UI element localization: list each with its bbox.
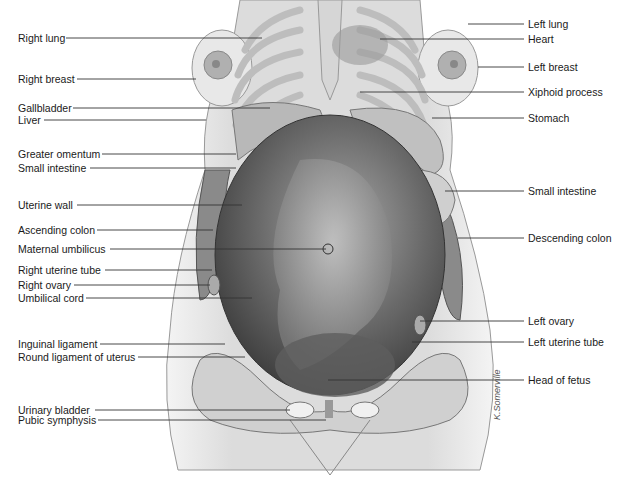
- heart: [332, 25, 388, 65]
- label-left-uterine-tube: Left uterine tube: [528, 336, 604, 348]
- label-pubic-symphysis: Pubic symphysis: [18, 414, 96, 426]
- label-left-ovary: Left ovary: [528, 315, 574, 327]
- left-ovary: [414, 315, 426, 335]
- label-stomach: Stomach: [528, 112, 569, 124]
- label-uterine-wall: Uterine wall: [18, 199, 73, 211]
- label-gallbladder: Gallbladder: [18, 102, 72, 114]
- label-small-intestine-right: Small intestine: [528, 185, 596, 197]
- label-ascending-colon: Ascending colon: [18, 224, 95, 236]
- label-descending-colon: Descending colon: [528, 232, 611, 244]
- label-small-intestine-left: Small intestine: [18, 162, 86, 174]
- label-left-breast: Left breast: [528, 61, 578, 73]
- label-heart: Heart: [528, 33, 554, 45]
- label-right-uterine-tube: Right uterine tube: [18, 264, 101, 276]
- label-round-ligament-of-uterus: Round ligament of uterus: [18, 351, 135, 363]
- artist-signature: K.Somerville: [492, 369, 502, 420]
- label-left-lung: Left lung: [528, 18, 568, 30]
- fetal-head: [275, 333, 395, 397]
- label-greater-omentum: Greater omentum: [18, 148, 100, 160]
- label-head-of-fetus: Head of fetus: [528, 374, 590, 386]
- label-maternal-umbilicus: Maternal umbilicus: [18, 243, 106, 255]
- label-inguinal-ligament: Inguinal ligament: [18, 338, 97, 350]
- label-right-breast: Right breast: [18, 73, 75, 85]
- label-liver: Liver: [18, 114, 41, 126]
- label-right-lung: Right lung: [18, 32, 65, 44]
- label-xiphoid-process: Xiphoid process: [528, 86, 603, 98]
- label-right-ovary: Right ovary: [18, 279, 71, 291]
- label-umbilical-cord: Umbilical cord: [18, 292, 84, 304]
